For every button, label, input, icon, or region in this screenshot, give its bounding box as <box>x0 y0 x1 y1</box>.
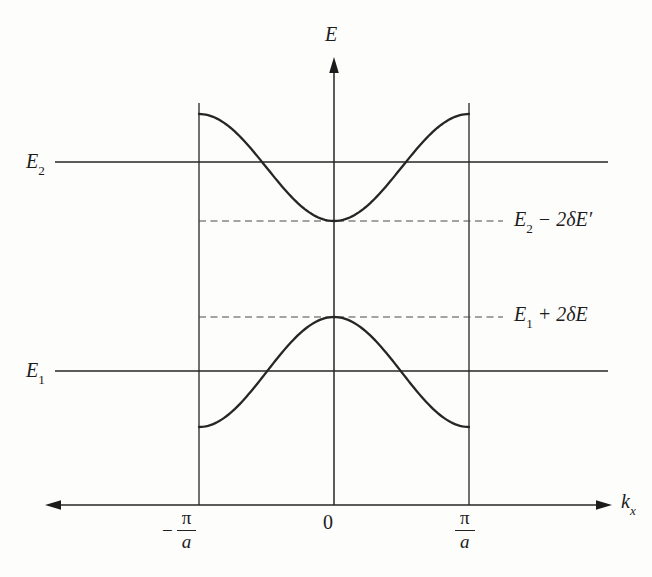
fraction-pi-over-a: π a <box>455 508 475 552</box>
y-axis-arrow-icon <box>329 57 339 73</box>
x-axis-left-arrow-icon <box>45 500 61 510</box>
x-axis-label: kx <box>621 490 636 512</box>
band-structure-figure: E kx E2 E1 E2 − 2δE′ E1 + 2δE − π a 0 π … <box>0 0 652 577</box>
x-axis-right-arrow-icon <box>596 500 612 510</box>
reference-lines-group <box>55 162 608 371</box>
tick-minus-pi-over-a: − π a <box>162 508 196 552</box>
e1-level-label: E1 <box>26 359 45 381</box>
upper-band-minimum-label: E2 − 2δE′ <box>514 208 592 230</box>
fraction-pi-over-a: π a <box>177 508 197 552</box>
lower-band-maximum-label: E1 + 2δE <box>514 303 588 325</box>
band-diagram-canvas <box>0 0 652 577</box>
y-axis-label: E <box>325 23 337 45</box>
tick-zero: 0 <box>323 511 333 533</box>
tick-pi-over-a: π a <box>455 508 475 552</box>
e2-level-label: E2 <box>26 150 45 172</box>
